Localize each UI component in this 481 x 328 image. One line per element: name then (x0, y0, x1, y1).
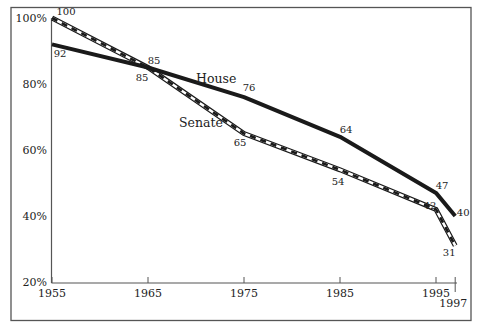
house-point-label: 85 (148, 55, 161, 66)
y-tick-label: 60% (23, 144, 47, 157)
house-point-label: 92 (54, 48, 67, 59)
senate-point-label: 85 (136, 72, 149, 83)
x-axis-labels: 195519651975198519951997 (38, 287, 467, 310)
data-point-labels: 9285766447401008565544231 (54, 6, 470, 258)
x-tick-label: 1975 (230, 287, 258, 300)
y-tick-label: 40% (23, 210, 47, 223)
house-point-label: 40 (457, 207, 470, 218)
house-point-label: 47 (436, 180, 449, 191)
house-point-label: 64 (340, 124, 353, 135)
y-axis-labels: 100%80%60%40%20% (16, 12, 47, 289)
chart-container: 100%80%60%40%20% 19551965197519851995199… (0, 0, 481, 328)
senate-point-label: 31 (443, 247, 456, 258)
house-point-label: 76 (243, 82, 256, 93)
senate-point-label: 54 (332, 176, 345, 187)
x-tick-label: 1985 (326, 287, 354, 300)
senate-point-label: 65 (234, 137, 247, 148)
senate-series-line (52, 18, 455, 246)
chart-frame (11, 8, 471, 321)
x-tick-label: 1997 (439, 297, 467, 310)
senate-point-label: 100 (56, 6, 75, 17)
senate-series-label: Senate (179, 115, 223, 130)
line-chart: 100%80%60%40%20% 19551965197519851995199… (0, 0, 481, 328)
y-tick-label: 100% (16, 12, 47, 25)
house-series-label: House (196, 71, 236, 86)
x-tick-label: 1965 (134, 287, 162, 300)
y-tick-label: 80% (23, 78, 47, 91)
x-tick-label: 1955 (38, 287, 66, 300)
senate-point-label: 42 (424, 200, 437, 211)
